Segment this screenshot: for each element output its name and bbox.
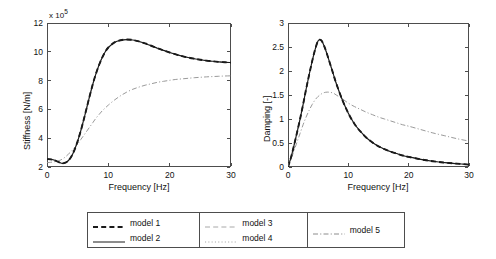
y-tick-label: 2 — [262, 66, 284, 76]
damping-plot — [288, 23, 469, 167]
series-model-3 — [288, 40, 469, 167]
y-tick-label: 3 — [262, 18, 284, 28]
y-tick — [465, 143, 468, 144]
x-tick-label: 10 — [344, 170, 353, 180]
y-tick-label: 4 — [21, 133, 43, 143]
y-tick-label: 2.5 — [262, 42, 284, 52]
y-tick — [465, 71, 468, 72]
x-tick — [288, 24, 289, 27]
series-model-3 — [47, 40, 231, 164]
x-tick — [348, 163, 349, 166]
legend-entry-model-1[interactable]: model 1 — [88, 215, 199, 230]
y-tick — [289, 95, 292, 96]
damping-x-axis-title-text: Frequency [Hz] — [347, 182, 408, 192]
legend-entry-model-5[interactable]: model 5 — [308, 223, 404, 238]
y-tick-label: 0 — [262, 162, 284, 172]
y-tick-label: 8 — [21, 76, 43, 86]
legend-column: model 1model 2 — [88, 213, 199, 247]
x-tick — [469, 24, 470, 27]
y-tick-label: 0.5 — [262, 138, 284, 148]
y-tick — [465, 119, 468, 120]
stiffness-x-axis-title-text: Frequency [Hz] — [108, 182, 169, 192]
series-model-5 — [288, 92, 469, 167]
legend-column: model 5 — [307, 213, 404, 247]
legend-entry-model-2[interactable]: model 2 — [88, 230, 199, 245]
y-tick — [289, 119, 292, 120]
y-tick — [465, 95, 468, 96]
x-tick — [108, 163, 109, 166]
legend-label: model 3 — [242, 218, 272, 228]
series-model-4 — [47, 40, 231, 164]
y-tick — [465, 167, 468, 168]
y-tick — [227, 51, 230, 52]
stiffness-curves — [47, 23, 231, 167]
y-tick — [289, 71, 292, 72]
y-tick — [227, 80, 230, 81]
series-model-4 — [288, 40, 469, 167]
legend-column: model 3model 4 — [199, 213, 306, 247]
x-tick — [231, 24, 232, 27]
y-tick — [227, 167, 230, 168]
y-tick — [465, 47, 468, 48]
x-tick — [169, 163, 170, 166]
x-tick-label: 10 — [104, 170, 113, 180]
x-tick-label: 20 — [165, 170, 174, 180]
y-tick — [227, 109, 230, 110]
x-tick — [469, 163, 470, 166]
y-tick — [227, 23, 230, 24]
x-tick — [231, 163, 232, 166]
x-tick-label: 30 — [464, 170, 473, 180]
legend-label: model 4 — [242, 233, 272, 243]
y-tick — [48, 109, 51, 110]
legend: model 1model 2model 3model 4model 5 — [87, 212, 405, 248]
exponent-power: 5 — [64, 8, 68, 15]
x-tick — [408, 24, 409, 27]
y-tick-label: 2 — [21, 162, 43, 172]
damping-x-axis-title: Frequency [Hz] — [347, 182, 408, 192]
legend-line-swatch — [92, 233, 126, 243]
legend-entry-model-4[interactable]: model 4 — [200, 230, 306, 245]
y-tick — [48, 167, 51, 168]
legend-label: model 5 — [350, 225, 380, 235]
x-tick — [348, 24, 349, 27]
legend-line-swatch — [92, 218, 126, 228]
legend-line-swatch — [312, 225, 346, 235]
y-tick — [289, 143, 292, 144]
x-tick — [47, 24, 48, 27]
stiffness-plot — [47, 23, 231, 167]
y-tick — [48, 80, 51, 81]
figure-canvas: x 105 Stiffness [N/m] Frequency [Hz] Dam… — [0, 0, 496, 259]
x-tick — [108, 24, 109, 27]
stiffness-y-exponent: x 105 — [49, 8, 68, 20]
series-model-1 — [47, 40, 231, 164]
exponent-mantissa: x 10 — [49, 11, 64, 20]
stiffness-x-axis-title: Frequency [Hz] — [108, 182, 169, 192]
legend-label: model 2 — [130, 233, 160, 243]
y-tick-label: 10 — [21, 47, 43, 57]
x-tick — [169, 24, 170, 27]
y-tick-label: 1 — [262, 114, 284, 124]
legend-label: model 1 — [130, 218, 160, 228]
x-tick-label: 30 — [226, 170, 235, 180]
series-model-2 — [47, 40, 231, 164]
y-tick — [227, 138, 230, 139]
y-tick — [465, 23, 468, 24]
damping-curves — [288, 23, 469, 167]
x-tick-label: 0 — [45, 170, 50, 180]
x-tick-label: 0 — [286, 170, 291, 180]
y-tick — [289, 47, 292, 48]
x-tick-label: 20 — [404, 170, 413, 180]
y-tick — [289, 23, 292, 24]
series-model-2 — [288, 40, 469, 167]
y-tick — [48, 23, 51, 24]
y-tick — [48, 51, 51, 52]
legend-entry-model-3[interactable]: model 3 — [200, 215, 306, 230]
y-tick-label: 6 — [21, 104, 43, 114]
x-tick — [408, 163, 409, 166]
legend-line-swatch — [204, 218, 238, 228]
y-tick — [48, 138, 51, 139]
y-tick — [289, 167, 292, 168]
legend-line-swatch — [204, 233, 238, 243]
y-tick-label: 12 — [21, 18, 43, 28]
y-tick-label: 1.5 — [262, 90, 284, 100]
